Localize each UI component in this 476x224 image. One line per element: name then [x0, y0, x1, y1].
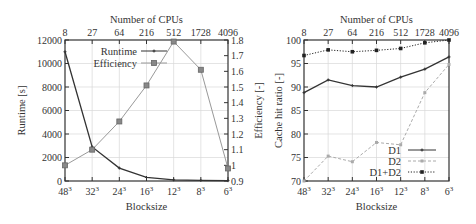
x-tick-label: 63 [445, 185, 454, 197]
x-tick-label: 483 [58, 185, 72, 197]
cache-hit-ratio-chart: 7075808590951004838323272436416321612351… [273, 14, 459, 212]
y-tick-label: 10000 [37, 58, 62, 69]
y2-tick-label: 1.6 [231, 66, 244, 77]
figure: 0200040006000800010000120004838323272436… [0, 0, 476, 224]
top-x-tick-label: 1728 [191, 27, 211, 38]
legend: RuntimeEfficiency [93, 46, 167, 69]
data-point [351, 50, 355, 54]
data-point [351, 84, 354, 87]
y-tick-label: 70 [291, 176, 301, 187]
legend-marker [421, 149, 424, 152]
data-point [198, 67, 203, 72]
y-tick-label: 90 [291, 82, 301, 93]
y-tick-label: 8000 [42, 82, 62, 93]
y2-tick-label: 1.3 [231, 113, 244, 124]
legend: D1D2D1+D2 [369, 145, 436, 178]
top-x-tick-label: 8 [63, 27, 68, 38]
top-x-tick-label: 216 [369, 27, 384, 38]
data-point [144, 83, 149, 88]
x-tick-label: 243 [346, 185, 360, 197]
y-tick-label: 75 [291, 152, 301, 163]
y-tick-label: 100 [286, 35, 301, 46]
data-point [64, 50, 67, 53]
x-tick-label: 123 [167, 185, 181, 197]
top-x-tick-label: 8 [302, 27, 307, 38]
data-point [63, 163, 68, 168]
y-tick-label: 12000 [37, 35, 62, 46]
runtime-efficiency-chart: 0200040006000800010000120004838323272436… [16, 14, 264, 212]
y2-tick-label: 1.8 [231, 35, 244, 46]
y2-tick-label: 1.2 [231, 129, 244, 140]
data-point [226, 166, 231, 171]
top-x-tick-label: 27 [323, 27, 333, 38]
top-x-tick-label: 64 [114, 27, 124, 38]
data-point [399, 47, 403, 51]
x-tick-label: 83 [197, 185, 206, 197]
x-tick-label: 63 [224, 185, 233, 197]
data-point [171, 39, 176, 44]
top-x-tick-label: 216 [139, 27, 154, 38]
x-tick-label: 163 [370, 185, 384, 197]
data-point [303, 180, 306, 183]
top-x-tick-label: 27 [87, 27, 97, 38]
legend-label: D1 [388, 145, 401, 156]
top-x-tick-label: 4096 [439, 27, 459, 38]
legend-marker [152, 61, 157, 66]
y-tick-label: 6000 [42, 105, 62, 116]
x-tick-label: 123 [394, 185, 408, 197]
legend-marker [420, 170, 424, 174]
legend-label: Runtime [101, 46, 138, 57]
x-tick-label: 483 [297, 185, 311, 197]
y2-tick-label: 1 [231, 160, 236, 171]
data-point [117, 119, 122, 124]
x-axis-title: Blocksize [356, 201, 398, 212]
y2-tick-label: 1.7 [231, 50, 244, 61]
x-tick-label: 323 [85, 185, 99, 197]
data-point [375, 49, 379, 53]
data-point [447, 38, 451, 42]
top-x-tick-label: 512 [393, 27, 408, 38]
y-tick-label: 95 [291, 58, 301, 69]
data-point [423, 41, 427, 45]
y-tick-label: 2000 [42, 152, 62, 163]
top-x-tick-label: 1728 [415, 27, 435, 38]
y2-tick-label: 1.5 [231, 82, 244, 93]
y2-tick-label: 1.1 [231, 144, 244, 155]
legend-label: D1+D2 [369, 167, 401, 178]
data-point [423, 91, 426, 94]
data-point [227, 179, 230, 182]
top-x-tick-label: 512 [166, 27, 181, 38]
top-axis-title: Number of CPUs [340, 14, 413, 25]
x-tick-label: 243 [113, 185, 127, 197]
data-point [302, 54, 306, 58]
y-tick-label: 80 [291, 129, 301, 140]
legend-label: D2 [388, 156, 401, 167]
y-tick-label: 4000 [42, 129, 62, 140]
data-point [351, 160, 354, 163]
top-x-tick-label: 64 [347, 27, 357, 38]
data-point [375, 141, 378, 144]
y2-tick-label: 1.4 [231, 97, 244, 108]
x-axis-title: Blocksize [126, 201, 168, 212]
y2-axis-title: Efficiency [-] [253, 82, 264, 139]
legend-marker [153, 50, 156, 53]
y-axis-title: Cache hit ratio [-] [273, 73, 284, 148]
data-point [327, 155, 330, 158]
y2-tick-label: 0.9 [231, 176, 244, 187]
x-tick-label: 163 [140, 185, 154, 197]
y-tick-label: 0 [57, 176, 62, 187]
x-tick-label: 83 [421, 185, 430, 197]
x-tick-label: 323 [321, 185, 335, 197]
data-point [326, 48, 330, 52]
legend-marker [421, 160, 424, 163]
top-axis-title: Number of CPUs [110, 14, 183, 25]
y-tick-label: 85 [291, 105, 301, 116]
data-point [448, 63, 451, 66]
data-point [90, 147, 95, 152]
legend-label: Efficiency [93, 58, 137, 69]
y-axis-title: Runtime [s] [16, 86, 27, 136]
